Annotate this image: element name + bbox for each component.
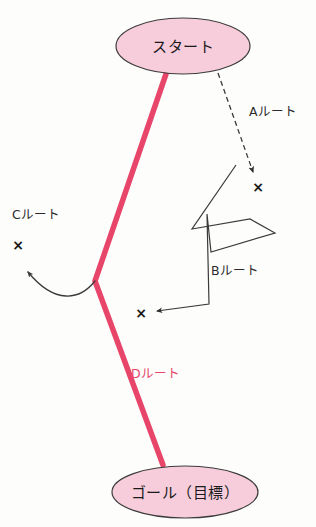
goal-label: ゴール（目標）: [131, 484, 240, 502]
route-c-deadend-x-icon: ×: [12, 237, 24, 253]
node-start[interactable]: スタート: [116, 18, 250, 74]
route-c-label: Cルート: [12, 207, 60, 222]
route-d-label: Dルート: [131, 366, 180, 381]
route-b-label: Bルート: [211, 263, 259, 278]
start-label: スタート: [152, 38, 214, 56]
route-d-path: [95, 74, 166, 465]
diagram-canvas: スタート ゴール（目標） Aルート Bルート Cルート Dルート × × ×: [0, 0, 316, 527]
route-a-deadend-x-icon: ×: [252, 179, 264, 195]
route-c-path: [28, 272, 95, 296]
route-a-label: Aルート: [249, 104, 297, 119]
route-diagram: スタート ゴール（目標） Aルート Bルート Cルート Dルート × × ×: [0, 0, 316, 527]
node-goal[interactable]: ゴール（目標）: [112, 466, 258, 518]
route-b-deadend-x-icon: ×: [135, 305, 147, 321]
route-a-path: [218, 73, 253, 172]
